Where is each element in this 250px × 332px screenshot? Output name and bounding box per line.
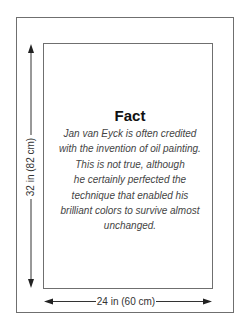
fact-line: with the invention of oil painting. bbox=[44, 141, 216, 156]
width-dimension-label: 24 in (60 cm) bbox=[96, 295, 156, 309]
fact-line: Jan van Eyck is often credited bbox=[44, 126, 216, 141]
arrowhead-down-icon bbox=[28, 279, 34, 288]
fact-line: brilliant colors to survive almost bbox=[44, 203, 216, 218]
fact-line: he certainly perfected the bbox=[44, 172, 216, 187]
fact-line: This is not true, although bbox=[44, 157, 216, 172]
fact-title: Fact bbox=[44, 107, 216, 125]
arrowhead-left-icon bbox=[44, 299, 53, 305]
arrowhead-up-icon bbox=[28, 44, 34, 53]
fact-text-block: Fact Jan van Eyck is often credited with… bbox=[44, 107, 216, 234]
fact-line: unchanged. bbox=[44, 218, 216, 233]
height-dimension-label: 32 in (82 cm) bbox=[24, 135, 38, 199]
fact-line: technique that enabled his bbox=[44, 188, 216, 203]
arrowhead-right-icon bbox=[203, 299, 212, 305]
